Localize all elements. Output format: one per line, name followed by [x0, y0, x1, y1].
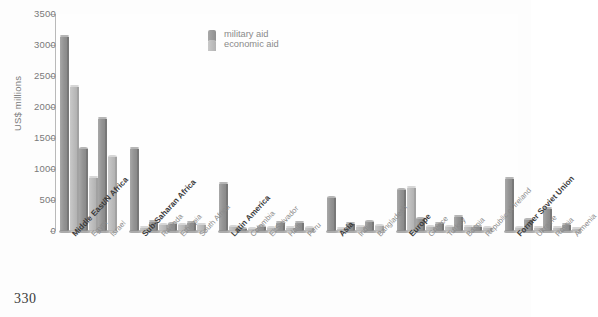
y-tick-label: 3500 [14, 9, 56, 19]
bar-military [130, 149, 139, 231]
y-tick-label: 3000 [14, 40, 56, 50]
bar-side [137, 149, 139, 231]
bar-military [327, 198, 336, 231]
legend-swatch-economic-icon [208, 40, 216, 51]
legend: military aid economic aid [202, 29, 332, 57]
bar-face [60, 37, 67, 231]
bar-economic [70, 87, 79, 231]
bar-side [334, 198, 336, 231]
y-axis-title: US$ millions [12, 59, 23, 149]
y-tick-label: 500 [14, 195, 56, 205]
y-tick-label: 1000 [14, 164, 56, 174]
x-axis-labels: Middle East/N AfricaEgyptIsraelSub-Sahar… [0, 231, 531, 301]
bar-military [60, 37, 69, 231]
x-axis-label: Armenia [573, 212, 598, 238]
bar-face [327, 198, 334, 231]
legend-label-economic: economic aid [224, 39, 279, 50]
page-number: 330 [14, 291, 37, 307]
bar-face [130, 149, 137, 231]
bar-face [70, 87, 77, 231]
